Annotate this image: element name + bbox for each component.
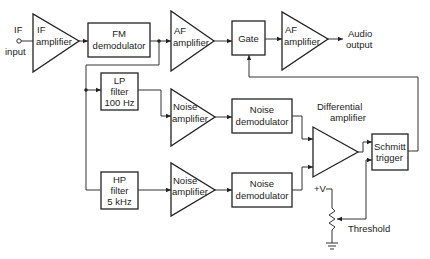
fm-demodulator-block: FM demodulator [88,23,150,57]
schmitt-trigger-block: Schmitt trigger [372,134,408,170]
hp-filter-label-3: 5 kHz [107,196,132,207]
if-input: IF input [5,24,33,57]
af-amplifier-2-label: AF [285,24,297,35]
differential-amplifier-label: Differential [317,101,362,112]
fm-demodulator-label: FM [112,28,126,39]
resistor-zigzag-icon [329,208,335,230]
af-amplifier-1-label: AF [174,25,186,36]
differential-amplifier-block: Differential amplifier [313,101,366,177]
threshold-potentiometer: +V Threshold [314,160,390,249]
noise-amplifier-1-label-2: amplifier [172,113,208,124]
af-amplifier-2-label-2: amplifier [284,36,320,47]
noise-demodulator-1-label: Noise [250,104,274,115]
af-amplifier-1-label-2: amplifier [173,37,209,48]
noise-amplifier-2-label-2: amplifier [172,186,208,197]
threshold-label: Threshold [348,223,390,234]
audio-output-label-2: output [346,39,373,50]
noise-amplifier-1-label: Noise [173,101,197,112]
noise-demodulator-1-block: Noise demodulator [232,99,292,133]
af-amplifier-2-block: AF amplifier [282,12,328,70]
if-amplifier-label-2: amplifier [36,36,72,47]
noise-amplifier-1-block: Noise amplifier [171,89,215,146]
gate-label: Gate [238,33,259,44]
af-amplifier-1-block: AF amplifier [171,11,214,71]
schmitt-trigger-label-2: trigger [376,152,403,163]
input-terminal-icon [17,39,21,43]
noise-amplifier-2-label: Noise [173,175,197,186]
if-amplifier-label: IF [37,24,46,35]
block-diagram: IF input IF amplifier FM demodulator AF … [0,0,430,259]
noise-demodulator-2-block: Noise demodulator [232,173,292,207]
if-amplifier-block: IF amplifier [33,14,79,72]
schmitt-trigger-label: Schmitt [374,141,406,152]
noise-demodulator-1-label-2: demodulator [236,116,289,127]
noise-amplifier-2-block: Noise amplifier [171,163,215,216]
noise-demodulator-2-label: Noise [250,178,274,189]
supply-voltage-label: +V [314,183,327,194]
audio-output-label: Audio [348,28,372,39]
fm-demodulator-label-2: demodulator [93,40,146,51]
if-input-label: IF [14,24,23,35]
hp-filter-block: HP filter 5 kHz [101,172,138,209]
lp-filter-label-3: 100 Hz [104,97,134,108]
lp-filter-block: LP filter 100 Hz [101,73,138,110]
lp-filter-label: LP [114,75,126,86]
gate-block: Gate [232,21,265,55]
differential-amplifier-label-2: amplifier [330,112,366,123]
audio-output: Audio output [346,28,373,50]
noise-demodulator-2-label-2: demodulator [236,190,289,201]
if-input-label-2: input [5,46,26,57]
amplifier-triangle-icon [313,127,358,177]
lp-filter-label-2: filter [111,86,129,97]
hp-filter-label-2: filter [111,185,129,196]
hp-filter-label: HP [113,174,126,185]
